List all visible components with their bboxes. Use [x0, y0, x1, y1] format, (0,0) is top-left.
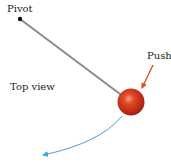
pivot-dot-icon	[18, 17, 22, 21]
top-view-label: Top view	[10, 82, 55, 92]
ball-icon	[118, 89, 145, 116]
push-label: Push	[147, 51, 171, 61]
motion-path-arrow-icon	[43, 116, 122, 155]
push-arrow-icon	[142, 65, 153, 88]
pivot-label: Pivot	[7, 4, 33, 14]
